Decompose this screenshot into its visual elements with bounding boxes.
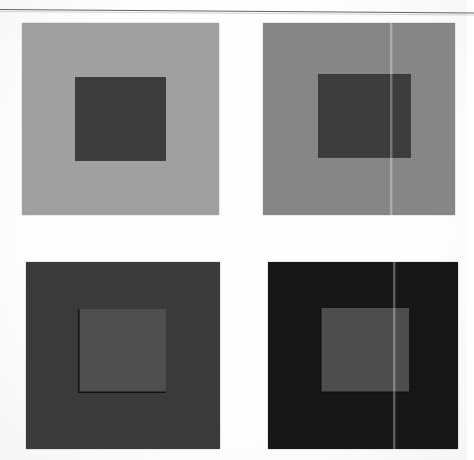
panel-top-right-test-patch: [318, 74, 411, 158]
panel-top-left-test-patch: [75, 77, 166, 161]
panel-bottom-left: [26, 262, 220, 449]
panel-bottom-left-test-patch: [78, 309, 166, 393]
panel-bottom-right: [268, 262, 458, 449]
panel-top-left: [22, 23, 219, 215]
panel-top-right: [263, 23, 455, 215]
panel-bottom-right-test-patch: [320, 308, 409, 393]
